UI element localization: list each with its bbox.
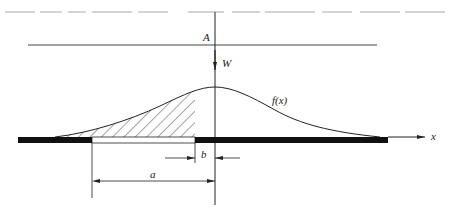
screen-bar-right xyxy=(195,137,388,143)
label-w: W xyxy=(222,57,232,69)
label-b: b xyxy=(201,148,207,160)
label-x-axis: x xyxy=(430,130,436,142)
label-a: a xyxy=(150,168,156,180)
distribution-diagram: A W f(x) x b a xyxy=(0,0,449,217)
label-fx: f(x) xyxy=(272,94,288,107)
aperture-opening xyxy=(92,137,195,143)
shaded-probability-region xyxy=(55,91,195,137)
label-a-line: A xyxy=(202,31,210,43)
dim-a-left-arrowhead xyxy=(92,179,100,183)
screen-bar-left xyxy=(18,137,92,143)
